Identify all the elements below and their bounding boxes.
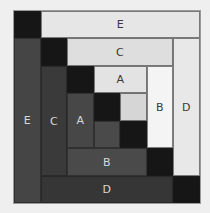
piece-corner-a-top: [67, 66, 94, 93]
piece-strip-e-top: E: [41, 11, 200, 38]
piece-label: D: [103, 183, 112, 196]
piece-corner-b-bottom: [147, 148, 173, 176]
piece-strip-a-top: A: [94, 66, 147, 93]
piece-strip-e-left: E: [14, 38, 41, 203]
piece-label: B: [103, 156, 111, 169]
piece-corner-top-left: [14, 11, 41, 38]
piece-label: A: [76, 114, 84, 127]
piece-label: C: [50, 115, 58, 128]
piece-label: E: [117, 18, 124, 31]
piece-label: C: [116, 46, 124, 59]
quilt-block: EECDCABABD: [14, 11, 200, 203]
piece-center-light: [120, 93, 147, 121]
piece-center-black-2: [120, 121, 147, 148]
piece-strip-c-left: C: [41, 66, 67, 176]
piece-corner-bottom-right: [173, 176, 200, 203]
piece-center-black-1: [94, 93, 120, 121]
piece-strip-c-top: C: [67, 38, 173, 66]
piece-label: B: [156, 101, 164, 114]
piece-strip-b-right: B: [147, 66, 173, 148]
piece-strip-d-right: D: [173, 38, 200, 176]
piece-label: E: [24, 114, 31, 127]
piece-label: A: [116, 73, 124, 86]
piece-corner-c-top: [41, 38, 67, 66]
piece-label: D: [182, 101, 191, 114]
piece-strip-d-bottom: D: [41, 176, 173, 203]
piece-strip-a-left: A: [67, 93, 94, 148]
piece-center-dark: [94, 121, 120, 148]
piece-strip-b-bottom: B: [67, 148, 147, 176]
